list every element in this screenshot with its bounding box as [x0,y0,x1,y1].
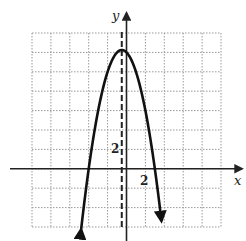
x-tick-label: 2 [140,174,148,188]
parabola-curve [81,50,161,229]
axes [10,13,242,241]
y-tick-label: 2 [111,142,119,156]
x-axis-label: x [234,173,242,188]
graph: x y 2 2 [0,0,246,241]
y-axis-label: y [111,8,120,23]
